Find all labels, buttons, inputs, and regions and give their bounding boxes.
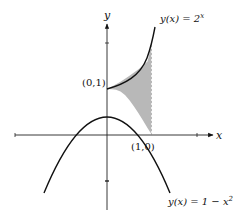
x-axis-label: x [216, 129, 223, 142]
shaded-region [107, 43, 152, 135]
y-axis-label: y [103, 9, 111, 22]
parabola-label: y(x) = 1 − x2 [167, 195, 234, 207]
function-plot: y x (0,1) (1,0) y(x) = 2x y(x) = 1 − x2 [0, 0, 238, 223]
point-label-1-0: (1,0) [131, 141, 155, 152]
exponential-label: y(x) = 2x [159, 12, 204, 24]
point-label-0-1: (0,1) [82, 77, 106, 88]
